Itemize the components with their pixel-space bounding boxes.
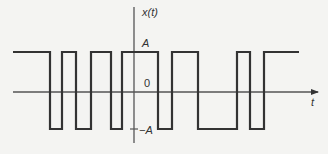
y-axis-label: x(t) xyxy=(142,7,158,18)
binary-waveform xyxy=(13,52,299,129)
zero-level-label: 0 xyxy=(144,78,150,89)
waveform-plot xyxy=(0,0,328,154)
low-level-label: −A xyxy=(139,125,153,136)
x-axis-label: t xyxy=(311,97,314,108)
waveform-diagram: x(t) A 0 −A t xyxy=(0,0,328,154)
high-level-label: A xyxy=(142,38,149,49)
